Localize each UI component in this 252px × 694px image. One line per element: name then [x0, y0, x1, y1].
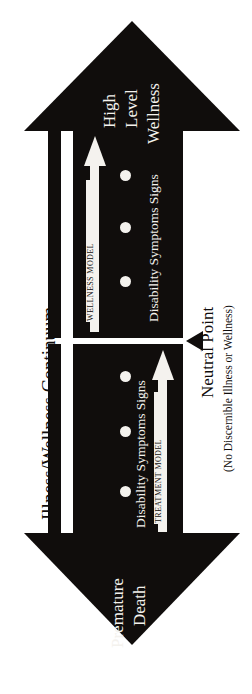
neutral-point-divider [48, 338, 188, 344]
illness-wellness-continuum-page: WELLNESS MODEL TREATMENT MODEL Disabilit… [0, 0, 252, 694]
premature-death-line-1: Premature [108, 578, 128, 648]
premature-death-label: Premature Death [104, 540, 156, 652]
wellness-model-label: WELLNESS MODEL [86, 180, 95, 322]
wellness-stage-label: Disability Symptoms Signs [146, 174, 162, 322]
high-level-wellness-line-2: Level [122, 89, 142, 128]
neutral-point-subtitle: (No Discernible Illness or Wellness) [222, 305, 234, 472]
page-title: Illness/Wellness Continuum [38, 307, 60, 520]
treatment-model-label: TREATMENT MODEL [154, 392, 163, 524]
high-level-wellness-line-3: Wellness [144, 83, 164, 144]
premature-death-line-2: Death [130, 585, 150, 626]
marker-dot [120, 486, 131, 497]
illness-stage-label: Disability Symptoms Signs [133, 380, 149, 528]
marker-dot [120, 222, 131, 233]
marker-dot [120, 371, 131, 382]
neutral-point-title: Neutral Point [198, 307, 218, 398]
marker-dot [120, 170, 131, 181]
high-level-wellness-label: High Level Wellness [96, 28, 172, 132]
marker-dot [120, 276, 131, 287]
marker-dot [120, 426, 131, 437]
high-level-wellness-line-1: High [100, 94, 120, 128]
